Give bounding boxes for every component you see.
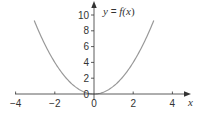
y-tick-label: 0 xyxy=(83,89,89,100)
y-tick-label: 10 xyxy=(78,10,90,21)
y-tick-label: 6 xyxy=(83,41,89,52)
x-tick-label: 0 xyxy=(91,98,97,109)
x-tick-label: 4 xyxy=(170,98,176,109)
y-tick-label: 2 xyxy=(83,73,89,84)
function-label: y = f(x) xyxy=(102,5,135,18)
x-tick-label: −4 xyxy=(10,98,22,109)
function-label-close: ) xyxy=(131,5,135,18)
function-label-eq: = xyxy=(108,6,119,17)
x-tick-label: −2 xyxy=(49,98,61,109)
y-axis-arrow-icon xyxy=(91,1,96,8)
y-tick-label: 8 xyxy=(83,25,89,36)
y-tick-label: 4 xyxy=(83,57,89,68)
y-ticks: 0246810 xyxy=(78,10,94,100)
chart: −4−2024 0246810 x y = f(x) xyxy=(0,0,199,120)
x-tick-label: 2 xyxy=(130,98,136,109)
x-axis-label: x xyxy=(187,96,193,108)
